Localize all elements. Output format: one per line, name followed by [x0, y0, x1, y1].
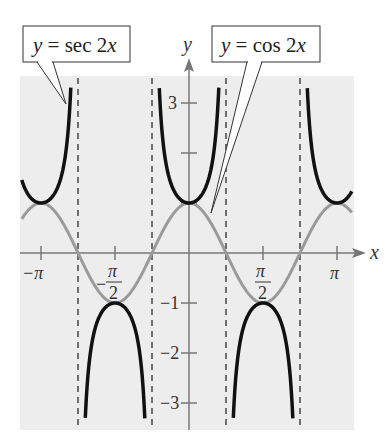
cos-callout-label: y = cos 2x [219, 33, 306, 57]
tick-label-y-3: 3 [168, 93, 177, 113]
x-axis-label: x [369, 241, 379, 263]
svg-text:π: π [256, 261, 266, 281]
svg-text:2: 2 [258, 283, 267, 303]
tick-label-y-neg1: −1 [160, 293, 179, 313]
svg-text:2: 2 [109, 283, 118, 303]
tick-label-pi: π [330, 263, 340, 283]
tick-label-y-neg2: −2 [160, 343, 179, 363]
sec-cos-graph: x y −π π − π 2 π 2 3 −1 −2 −3 y = sec 2x… [0, 0, 392, 441]
sec-callout-label: y = sec 2x [31, 33, 117, 57]
svg-text:−: − [96, 274, 106, 294]
tick-label-neg-pi: −π [22, 263, 44, 283]
tick-label-y-neg3: −3 [160, 393, 179, 413]
svg-text:π: π [108, 261, 118, 281]
y-axis-label: y [181, 33, 192, 56]
